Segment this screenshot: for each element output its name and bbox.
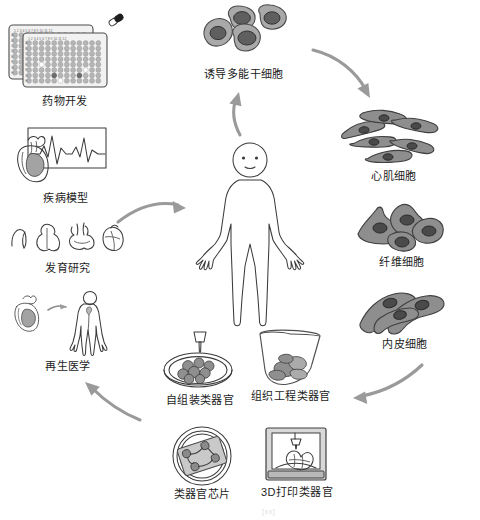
arrow-layer — [0, 0, 480, 520]
arrow-body-to-ipsc — [229, 92, 241, 135]
figure-caption-truncated: [xx] — [262, 508, 275, 515]
figure-canvas: 1 2 3 4 5 6 7 8 9 10 11 12 ABCDEFGH 1 2 … — [0, 0, 480, 520]
arrow-apps-to-body — [118, 201, 186, 222]
arrow-organoids-to-apps — [85, 382, 140, 420]
arrow-cells-to-organoids — [353, 365, 422, 404]
arrow-ipsc-to-cells — [313, 50, 370, 98]
